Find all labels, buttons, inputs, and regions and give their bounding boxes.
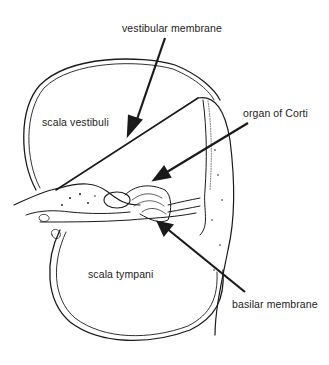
spiral-ligament bbox=[198, 98, 234, 335]
label-scala-vestibuli: scala vestibuli bbox=[42, 116, 109, 128]
scala-tympani-wall bbox=[50, 230, 223, 340]
basilar-membrane-pointer bbox=[165, 227, 245, 292]
cochlea-cross-section-drawing bbox=[0, 0, 329, 365]
label-scala-tympani: scala tympani bbox=[88, 268, 154, 280]
reissners-membrane bbox=[56, 98, 198, 190]
label-basilar-membrane: basilar membrane bbox=[232, 298, 318, 310]
vestibular-membrane-pointer bbox=[134, 38, 165, 128]
organ-of-corti bbox=[125, 186, 171, 222]
label-organ-of-corti: organ of Corti bbox=[243, 107, 308, 119]
organ-of-corti-pointer bbox=[162, 123, 248, 175]
spiral-limbus bbox=[14, 184, 140, 205]
label-vestibular-membrane: vestibular membrane bbox=[122, 22, 222, 34]
